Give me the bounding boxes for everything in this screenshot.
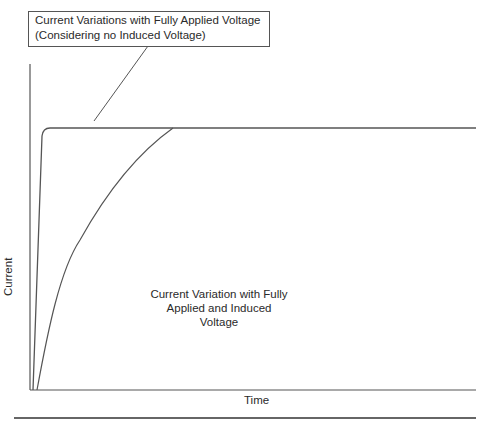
callout-leader-line	[94, 46, 148, 121]
x-axis-label: Time	[244, 394, 269, 406]
annotation-line-1: Current Variation with Fully	[130, 287, 308, 301]
y-axis-label: Current	[2, 258, 14, 296]
annotation-line-2: Applied and Induced	[130, 301, 308, 315]
diagram-canvas	[0, 0, 494, 424]
callout-line-1: Current Variations with Fully Applied Vo…	[35, 13, 269, 28]
callout-box: Current Variations with Fully Applied Vo…	[28, 11, 270, 47]
curve-applied-and-induced-voltage	[37, 128, 173, 390]
annotation-line-3: Voltage	[130, 315, 308, 329]
curve-annotation: Current Variation with Fully Applied and…	[130, 287, 308, 329]
curve-fully-applied-voltage	[33, 128, 476, 390]
callout-line-2: (Considering no Induced Voltage)	[35, 28, 269, 43]
